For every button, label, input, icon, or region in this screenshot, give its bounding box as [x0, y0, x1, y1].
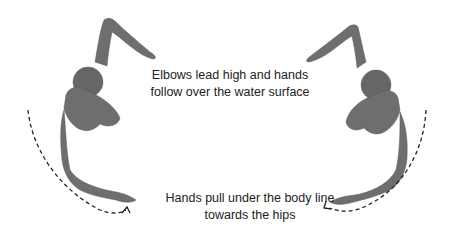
- recovery-caption: Elbows lead high and hands follow over t…: [150, 67, 310, 101]
- left-swimmer-figure: [61, 18, 156, 202]
- pull-caption-line1: Hands pull under the body line: [150, 190, 350, 207]
- recovery-caption-line2: follow over the water surface: [150, 84, 310, 101]
- pull-caption-line2: towards the hips: [150, 207, 350, 224]
- right-swimmer-figure: [307, 25, 408, 205]
- pull-caption: Hands pull under the body line towards t…: [150, 190, 350, 224]
- recovery-caption-line1: Elbows lead high and hands: [150, 67, 310, 84]
